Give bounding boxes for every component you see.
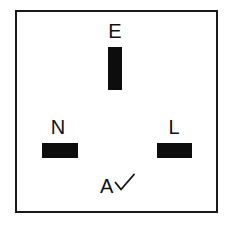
earth-pin-slot	[108, 47, 122, 90]
neutral-pin-label: N	[38, 117, 78, 137]
live-pin-label: L	[154, 117, 194, 137]
check-mark-icon	[114, 173, 136, 193]
earth-pin-label: E	[95, 21, 135, 41]
live-pin-slot	[157, 143, 192, 158]
socket-diagram: E N L A	[0, 0, 233, 228]
annotation-letter: A	[100, 176, 113, 196]
neutral-pin-slot	[42, 143, 78, 158]
answer-annotation: A	[100, 176, 136, 196]
